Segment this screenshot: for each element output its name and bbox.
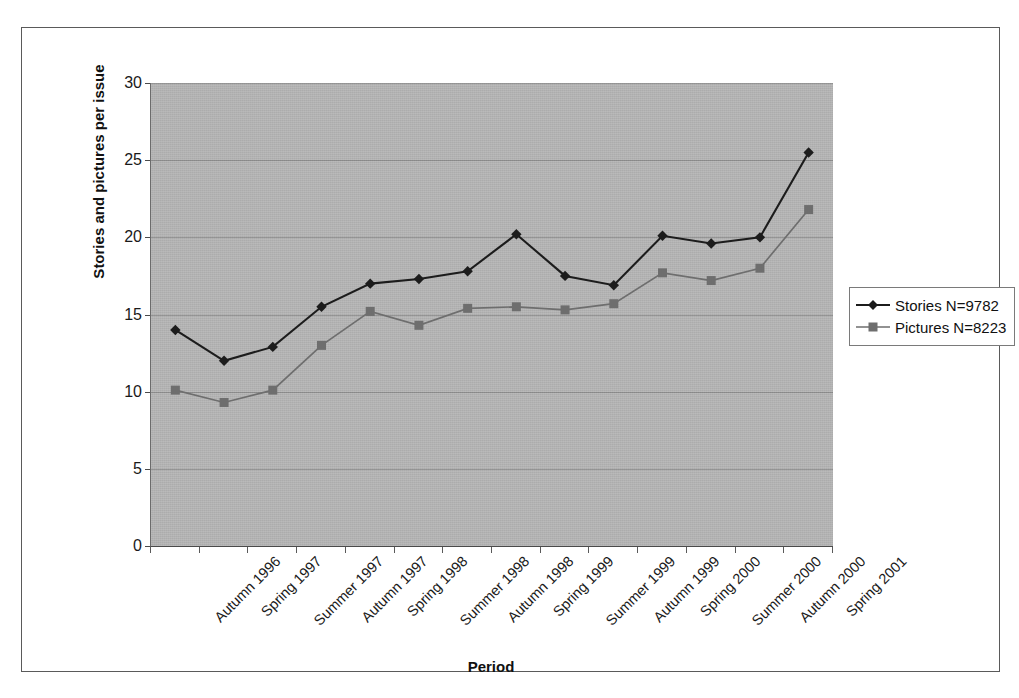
x-axis-title: Period xyxy=(150,658,832,675)
y-axis-tick-label: 25 xyxy=(124,151,142,169)
data-point-marker xyxy=(707,276,716,285)
data-point-marker xyxy=(803,147,813,157)
data-point-marker xyxy=(366,307,375,316)
series-line xyxy=(175,210,808,403)
data-point-marker xyxy=(317,341,326,350)
series-layer xyxy=(151,83,833,546)
chart-frame: Stories and pictures per issue 051015202… xyxy=(21,27,1000,672)
data-point-marker xyxy=(561,305,570,314)
x-axis-tick-mark xyxy=(832,547,833,553)
legend-label: Stories N=9782 xyxy=(895,297,999,314)
y-axis-tick-label: 30 xyxy=(124,74,142,92)
y-axis-tick-label: 20 xyxy=(124,228,142,246)
legend-label: Pictures N=8223 xyxy=(895,319,1006,336)
data-point-marker xyxy=(414,321,423,330)
data-point-marker xyxy=(512,302,521,311)
legend-item: Stories N=9782 xyxy=(856,294,1006,316)
data-point-marker xyxy=(365,278,375,288)
data-point-marker xyxy=(706,238,716,248)
series-stories xyxy=(170,147,814,366)
data-point-marker xyxy=(268,386,277,395)
y-axis-tick-label: 15 xyxy=(124,306,142,324)
data-point-marker xyxy=(170,325,180,335)
data-point-marker xyxy=(463,304,472,313)
data-point-marker xyxy=(658,268,667,277)
series-line xyxy=(175,152,808,360)
data-point-marker xyxy=(755,264,764,273)
diamond-marker-icon xyxy=(856,298,890,312)
y-axis-title: Stories and pictures per issue xyxy=(90,22,107,322)
y-axis-tick-labels: 051015202530 xyxy=(110,83,142,546)
data-point-marker xyxy=(609,299,618,308)
data-point-marker xyxy=(804,205,813,214)
data-point-marker xyxy=(171,386,180,395)
y-axis-tick-label: 0 xyxy=(133,537,142,555)
square-marker-icon xyxy=(856,320,890,334)
x-axis-tick-labels: Autumn 1996Spring 1997Summer 1997Autumn … xyxy=(150,553,832,663)
data-point-marker xyxy=(220,398,229,407)
y-axis-tick-label: 5 xyxy=(133,460,142,478)
data-point-marker xyxy=(219,356,229,366)
data-point-marker xyxy=(755,232,765,242)
legend-item: Pictures N=8223 xyxy=(856,316,1006,338)
plot-area xyxy=(150,83,833,547)
chart-legend: Stories N=9782 Pictures N=8223 xyxy=(849,287,1015,346)
series-pictures xyxy=(171,205,813,407)
data-point-marker xyxy=(414,274,424,284)
y-axis-tick-label: 10 xyxy=(124,383,142,401)
